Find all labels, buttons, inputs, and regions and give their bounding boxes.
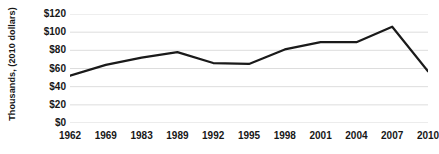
y-axis-title-label: Thousands, (2010 dollars) xyxy=(7,7,17,121)
y-axis-tick-labels: $0$20$40$60$80$100$120 xyxy=(24,0,70,132)
y-axis-tick-label: $100 xyxy=(44,27,66,37)
y-axis-tick-label: $0 xyxy=(55,118,66,128)
x-axis-tick-label: 1992 xyxy=(202,131,224,141)
x-axis-tick-label: 1998 xyxy=(274,131,296,141)
y-axis-title: Thousands, (2010 dollars) xyxy=(0,0,24,128)
x-axis-tick-label: 2010 xyxy=(417,131,439,141)
x-axis-tick-label: 1989 xyxy=(166,131,188,141)
y-axis-tick-label: $20 xyxy=(49,100,66,110)
x-axis-tick-label: 2007 xyxy=(381,131,403,141)
x-axis-tick-label: 1962 xyxy=(59,131,81,141)
y-axis-tick-label: $120 xyxy=(44,9,66,19)
y-axis-tick-label: $80 xyxy=(49,45,66,55)
x-axis-tick-label: 1983 xyxy=(130,131,152,141)
x-axis-tick-label: 2004 xyxy=(345,131,367,141)
plot-svg xyxy=(70,14,428,123)
plot-area xyxy=(70,14,428,123)
x-axis-tick-labels: 1962196919831989199219951998200120042007… xyxy=(70,131,428,151)
y-axis-tick-label: $60 xyxy=(49,64,66,74)
y-axis-tick-label: $40 xyxy=(49,82,66,92)
x-axis-tick-label: 2001 xyxy=(309,131,331,141)
x-axis-tick-label: 1969 xyxy=(95,131,117,141)
gridlines xyxy=(70,14,428,123)
x-axis-tick-label: 1995 xyxy=(238,131,260,141)
